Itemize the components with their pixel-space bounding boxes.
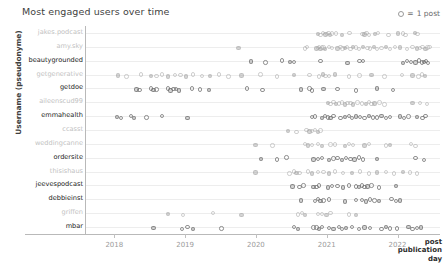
data-point — [398, 198, 402, 202]
data-point — [253, 143, 257, 147]
data-point — [377, 185, 381, 189]
data-point — [292, 73, 296, 77]
data-point — [318, 59, 322, 63]
data-point — [184, 74, 188, 78]
data-point — [320, 144, 324, 148]
data-point — [151, 226, 155, 230]
data-point — [149, 74, 153, 78]
data-point — [198, 87, 202, 91]
data-point — [418, 101, 422, 105]
data-point — [388, 115, 392, 119]
x-axis-tick-label: 2020 — [247, 241, 265, 249]
data-point — [299, 198, 303, 202]
y-axis-tick-label: debbieinst — [48, 194, 83, 202]
x-axis-tick — [185, 234, 186, 238]
data-point — [333, 72, 337, 76]
data-point — [413, 156, 417, 160]
data-point — [331, 114, 335, 118]
data-point — [388, 47, 392, 51]
data-point — [367, 171, 371, 175]
data-point — [178, 73, 182, 77]
data-point — [367, 33, 371, 37]
data-point — [344, 226, 348, 230]
data-point — [406, 114, 410, 118]
y-axis-tick-label: beautygrounded — [28, 56, 83, 64]
data-point — [422, 158, 426, 162]
data-point — [181, 213, 185, 217]
data-point — [290, 184, 294, 188]
data-point — [330, 46, 334, 50]
data-point — [333, 142, 337, 146]
data-point — [245, 86, 249, 90]
row-gridline — [86, 213, 440, 214]
data-point — [166, 212, 170, 216]
data-point — [351, 143, 355, 147]
legend: = 1 post — [398, 9, 440, 18]
data-point — [270, 143, 274, 147]
data-point — [413, 144, 417, 148]
data-point — [375, 86, 379, 90]
data-point — [292, 60, 296, 64]
data-point — [327, 171, 331, 175]
data-point — [327, 74, 331, 78]
data-point — [377, 100, 381, 104]
data-point — [330, 184, 334, 188]
data-point — [321, 87, 325, 91]
data-point — [386, 33, 390, 37]
data-point — [393, 45, 397, 49]
data-point — [372, 198, 376, 202]
x-axis-tick — [327, 234, 328, 238]
data-point — [362, 225, 366, 229]
data-point — [286, 129, 290, 133]
data-point — [361, 157, 365, 161]
data-point — [405, 47, 409, 51]
row-gridline — [86, 130, 440, 131]
data-point — [160, 114, 164, 118]
row-gridline — [86, 199, 440, 200]
data-point — [217, 72, 221, 76]
data-point — [379, 227, 383, 231]
data-point — [321, 170, 325, 174]
data-point — [357, 227, 361, 231]
data-point — [341, 185, 345, 189]
data-point — [350, 171, 354, 175]
data-point — [419, 225, 423, 229]
y-axis-tick-label: thisishaus — [50, 167, 83, 175]
data-point — [423, 74, 427, 78]
data-point — [296, 227, 300, 231]
y-axis-tick-label: ordersite — [54, 153, 84, 161]
data-point — [226, 74, 230, 78]
data-point — [388, 226, 392, 230]
data-point — [294, 130, 298, 134]
y-axis-tick-label: weddingcanne — [35, 139, 83, 147]
data-point — [211, 211, 215, 215]
y-axis-tick-label: mbar — [66, 222, 83, 230]
data-point — [313, 114, 317, 118]
data-point — [191, 72, 195, 76]
data-point — [347, 212, 351, 216]
data-point — [160, 72, 164, 76]
data-point — [394, 184, 398, 188]
data-point — [236, 46, 240, 50]
data-point — [316, 170, 320, 174]
y-axis-tick-label: jakes.podcast — [38, 28, 83, 36]
data-point — [354, 198, 358, 202]
data-point — [377, 199, 381, 203]
data-point — [303, 213, 307, 217]
data-point — [358, 169, 362, 173]
row-gridline — [86, 185, 440, 186]
y-axis-tick-label: getgenerative — [37, 70, 83, 78]
plot-area: jakes.podcastamy.skybeautygroundedgetgen… — [86, 26, 440, 234]
data-point — [357, 73, 361, 77]
data-point — [347, 31, 351, 35]
data-point — [369, 73, 373, 77]
data-point — [318, 128, 322, 132]
data-point — [144, 115, 148, 119]
data-point — [328, 211, 332, 215]
data-point — [347, 183, 351, 187]
data-point — [415, 171, 419, 175]
data-point — [347, 74, 351, 78]
data-point — [427, 45, 431, 49]
data-point — [415, 32, 419, 36]
data-point — [423, 114, 427, 118]
